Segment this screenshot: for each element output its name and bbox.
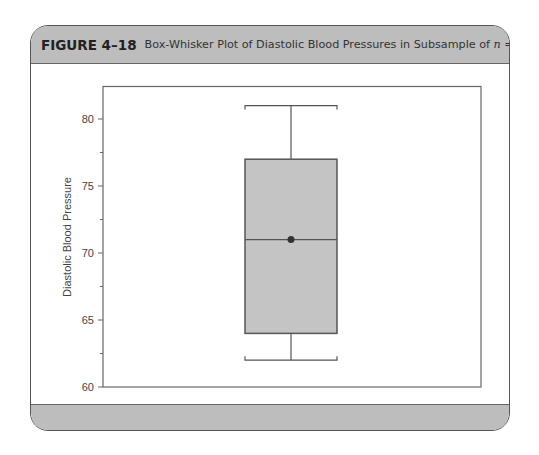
box-series <box>245 106 337 361</box>
mean-marker <box>288 236 295 243</box>
y-tick-label: 60 <box>82 381 94 393</box>
box-plot: 6065707580 Diastolic Blood Pressure <box>0 0 539 455</box>
y-axis-label: Diastolic Blood Pressure <box>61 177 73 297</box>
y-tick-label: 75 <box>82 180 94 192</box>
y-tick-label: 70 <box>82 247 94 259</box>
y-tick-label: 65 <box>82 314 94 326</box>
y-tick-label: 80 <box>82 113 94 125</box>
y-axis: 6065707580 <box>82 113 103 393</box>
iqr-box <box>245 159 337 333</box>
